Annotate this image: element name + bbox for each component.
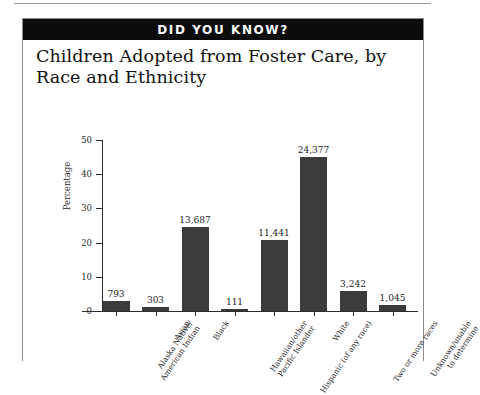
bar — [379, 305, 406, 311]
x-tick — [274, 312, 275, 316]
x-tick — [195, 312, 196, 316]
x-tick — [353, 312, 354, 316]
bar-value-label: 13,687 — [179, 215, 211, 225]
x-tick — [393, 312, 394, 316]
bar — [221, 309, 248, 311]
bar — [300, 157, 327, 311]
bar — [340, 291, 367, 311]
chart-plot-area: Percentage 01020304050 79330313,68711111… — [36, 95, 418, 357]
bar — [182, 227, 209, 311]
x-axis-line — [82, 311, 418, 312]
bar-value-label: 3,242 — [340, 279, 366, 289]
x-tick — [314, 312, 315, 316]
figure-box: DID YOU KNOW? Children Adopted from Fost… — [22, 18, 424, 361]
x-category-label: White — [330, 319, 350, 343]
y-tick-0 — [96, 311, 103, 312]
x-tick — [116, 312, 117, 316]
x-category-label: Hawaiian/other Pacific Islander — [268, 319, 316, 379]
did-you-know-banner: DID YOU KNOW? — [23, 19, 423, 40]
x-tick — [235, 312, 236, 316]
x-tick — [156, 312, 157, 316]
bar-value-label: 11,441 — [258, 228, 290, 238]
bar-value-label: 303 — [147, 295, 164, 305]
bar-value-label: 111 — [226, 297, 243, 307]
bar-value-label: 793 — [107, 289, 124, 299]
chart-title: Children Adopted from Foster Care, by Ra… — [36, 46, 408, 88]
page-top-rule — [14, 3, 431, 4]
bar — [142, 307, 169, 311]
x-category-label: Black — [211, 319, 230, 342]
banner-label: DID YOU KNOW? — [157, 23, 289, 37]
bar-value-label: 24,377 — [298, 145, 330, 155]
bar — [103, 301, 130, 311]
bar-value-label: 1,045 — [380, 293, 406, 303]
bar — [261, 240, 288, 311]
